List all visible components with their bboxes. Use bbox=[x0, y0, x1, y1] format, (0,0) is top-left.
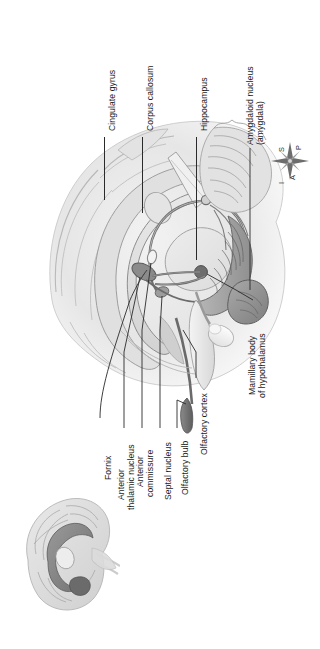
label-olfactory-bulb: Olfactory bulb bbox=[181, 441, 191, 495]
label-anterior-commissure-line1: Anterior bbox=[135, 456, 145, 487]
label-amygdaloid-nucleus: Amygdaloid nucleus bbox=[246, 66, 255, 145]
label-mamillary-body-line2: of hypothalamus bbox=[257, 333, 267, 398]
label-amygdaloid-nucleus-line1: Amygdaloid nucleus bbox=[245, 66, 255, 145]
label-olfactory-cortex: Olfactory cortex bbox=[200, 393, 210, 455]
compass-label-anterior: A bbox=[288, 175, 297, 180]
label-septal-nucleus: Septal nucleus bbox=[164, 442, 174, 500]
label-amygdaloid-nucleus-alt: (amygdala) bbox=[256, 101, 265, 145]
compass-label-superior: S bbox=[277, 147, 286, 152]
label-hippocampus: Hippocampus bbox=[200, 77, 210, 131]
label-corpus-callosum: Corpus callosum bbox=[146, 66, 156, 132]
label-anterior-commissure-alt: commissure bbox=[146, 450, 156, 497]
label-anterior-commissure-line2: commissure bbox=[145, 450, 155, 497]
label-fornix: Fornix bbox=[104, 456, 114, 480]
label-mamillary-body-line1: Mamillary body bbox=[247, 336, 257, 395]
whole-brain-orientation-inset bbox=[8, 488, 120, 628]
compass-label-posterior: P bbox=[294, 145, 303, 150]
compass-label-inferior: I bbox=[277, 182, 286, 184]
label-cingulate-gyrus: Cingulate gyrus bbox=[108, 70, 118, 131]
figure-canvas: Cingulate gyrus Corpus callosum Hippocam… bbox=[0, 0, 320, 649]
label-amygdaloid-nucleus-line2: (amygdala) bbox=[255, 101, 265, 145]
label-mamillary-body-alt: of hypothalamus bbox=[258, 333, 268, 398]
